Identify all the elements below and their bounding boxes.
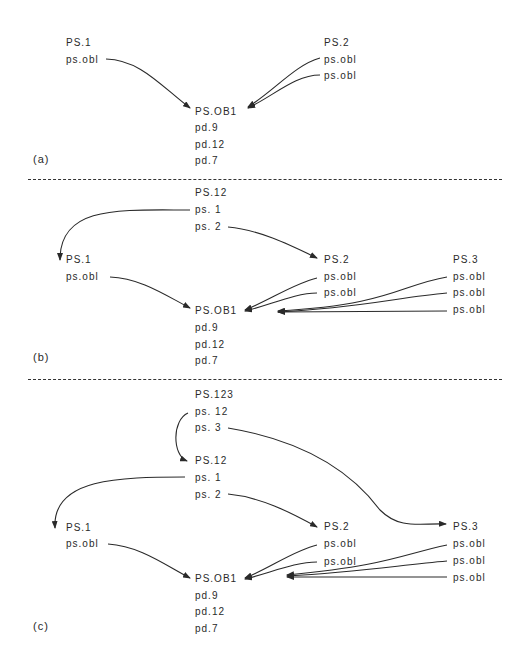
panel-tag-a: (a) [33,153,49,165]
c-ps3-item-2: ps.obl [453,555,486,567]
arrow-c-ps1-to-PS1 [55,477,185,528]
c-psob1-title: PS.OB1 [195,573,237,585]
arrow-a-ps1-to-psob1 [106,59,190,108]
b-ps1-item: ps.obl [66,271,99,283]
c-ps123-title: PS.123 [195,389,234,401]
arrow-b-ps1-to-PS1 [60,210,190,260]
panel-tag-b: (b) [33,351,49,363]
a-ps2-item-2: ps.obl [324,70,357,82]
c-psob1-item-1: pd.9 [195,590,218,602]
b-ps12-item-1: ps. 1 [195,204,222,216]
arrow-b-ps2-to-PS2 [228,227,317,258]
a-psob1-item-3: pd.7 [195,155,218,167]
arrow-c-ps3-to-PS3 [228,428,446,524]
c-ps1-title: PS.1 [66,522,92,534]
a-psob1-item-1: pd.9 [195,122,218,134]
c-ps1-item: ps.obl [66,538,99,550]
a-psob1-item-2: pd.12 [195,139,225,151]
a-ps2-item-1: ps.obl [324,54,357,66]
b-ps12-title: PS.12 [195,187,227,199]
c-ps12-item-2: ps. 2 [195,489,222,501]
b-ps12-item-2: ps. 2 [195,221,222,233]
c-psob1-item-2: pd.12 [195,606,225,618]
arrow-c-ps2-to-PS2 [228,494,317,527]
arrow-c-ps1obl-to-psob1 [108,544,190,578]
a-ps1-item: ps.obl [66,54,99,66]
a-ps2-title: PS.2 [324,37,350,49]
b-psob1-title: PS.OB1 [195,305,237,317]
arrow-c-ps3a-to-psob1 [287,545,447,575]
b-ps2-item-1: ps.obl [324,271,357,283]
b-ps3-item-2: ps.obl [453,287,486,299]
b-ps3-item-1: ps.obl [453,271,486,283]
a-psob1-title: PS.OB1 [195,106,237,118]
c-ps2-item-2: ps.obl [324,556,357,568]
arrow-b-ps2b-to-psob1 [245,293,317,311]
arrow-b-ps1obl-to-psob1 [110,277,190,308]
panel-tag-c: (c) [33,620,49,632]
b-psob1-item-3: pd.7 [195,355,218,367]
c-ps123-item-1: ps. 12 [195,406,228,418]
c-ps12-title: PS.12 [195,455,227,467]
b-ps3-title: PS.3 [453,254,479,266]
c-ps3-item-1: ps.obl [453,538,486,550]
divider-ab [28,179,502,180]
c-ps3-item-3: ps.obl [453,572,486,584]
arrow-b-ps3c-to-psob1 [278,311,447,312]
b-ps2-title: PS.2 [324,254,350,266]
b-ps2-item-2: ps.obl [324,287,357,299]
c-ps12-item-1: ps. 1 [195,472,222,484]
divider-bc [28,379,502,380]
b-ps1-title: PS.1 [66,254,92,266]
b-ps3-item-3: ps.obl [453,304,486,316]
arrow-a-ps2a-to-psob1 [248,58,320,107]
b-psob1-item-2: pd.12 [195,339,225,351]
c-psob1-item-3: pd.7 [195,623,218,635]
arrow-c-ps12-to-PS12 [176,413,188,461]
c-ps2-item-1: ps.obl [324,538,357,550]
b-psob1-item-1: pd.9 [195,322,218,334]
arrow-c-ps3b-to-psob1 [287,561,447,576]
c-ps123-item-2: ps. 3 [195,422,222,434]
c-ps2-title: PS.2 [324,521,350,533]
c-ps3-title: PS.3 [453,521,479,533]
a-ps1-title: PS.1 [66,37,92,49]
